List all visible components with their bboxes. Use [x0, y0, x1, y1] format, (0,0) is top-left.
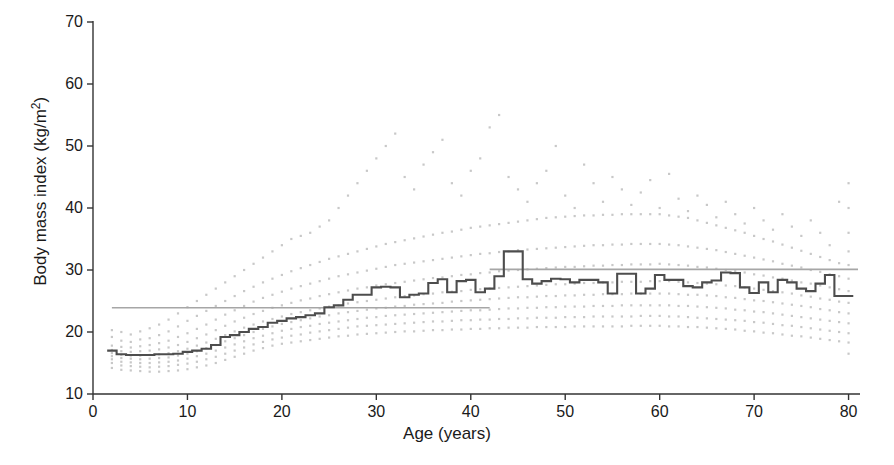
- scatter-point: [309, 232, 311, 234]
- scatter-point: [706, 327, 708, 329]
- scatter-point: [498, 270, 500, 272]
- scatter-point: [347, 302, 349, 304]
- scatter-point: [422, 260, 424, 262]
- scatter-point: [413, 237, 415, 239]
- scatter-point: [441, 311, 443, 313]
- scatter-point: [394, 323, 396, 325]
- scatter-point: [413, 313, 415, 315]
- scatter-point: [706, 266, 708, 268]
- scatter-point: [130, 346, 132, 348]
- scatter-point: [290, 270, 292, 272]
- scatter-point: [649, 315, 651, 317]
- scatter-point: [649, 213, 651, 215]
- scatter-point: [215, 288, 217, 290]
- scatter-point: [413, 261, 415, 263]
- scatter-point: [545, 284, 547, 286]
- scatter-point: [149, 366, 151, 368]
- scatter-point: [460, 229, 462, 231]
- scatter-point: [602, 315, 604, 317]
- scatter-point: [290, 313, 292, 315]
- scatter-point: [536, 284, 538, 286]
- scatter-point: [243, 305, 245, 307]
- y-tick-label: 10: [49, 386, 83, 402]
- scatter-point: [583, 316, 585, 318]
- scatter-point: [696, 282, 698, 284]
- scatter-point: [441, 329, 443, 331]
- scatter-point: [715, 327, 717, 329]
- scatter-point: [819, 308, 821, 310]
- scatter-point: [829, 309, 831, 311]
- scatter-point: [205, 323, 207, 325]
- scatter-point: [262, 335, 264, 337]
- scatter-point: [592, 315, 594, 317]
- scatter-point: [120, 369, 122, 371]
- scatter-point: [829, 286, 831, 288]
- scatter-point: [649, 280, 651, 282]
- scatter-point: [479, 309, 481, 311]
- scatter-point: [394, 133, 396, 135]
- scatter-point: [791, 247, 793, 249]
- scatter-point: [791, 226, 793, 228]
- scatter-point: [460, 310, 462, 312]
- scatter-point: [762, 258, 764, 260]
- scatter-point: [319, 261, 321, 263]
- scatter-point: [602, 293, 604, 295]
- scatter-point: [404, 330, 406, 332]
- scatter-point: [196, 366, 198, 368]
- scatter-point: [441, 232, 443, 234]
- scatter-point: [328, 278, 330, 280]
- scatter-point: [243, 317, 245, 319]
- scatter-point: [177, 350, 179, 352]
- scatter-point: [243, 353, 245, 355]
- scatter-point: [611, 281, 613, 283]
- scatter-point: [177, 369, 179, 371]
- scatter-point: [167, 356, 169, 358]
- scatter-point: [337, 320, 339, 322]
- scatter-point: [290, 335, 292, 337]
- scatter-point: [555, 295, 557, 297]
- scatter-point: [753, 288, 755, 290]
- scatter-point: [574, 316, 576, 318]
- scatter-point: [177, 336, 179, 338]
- scatter-point: [687, 281, 689, 283]
- scatter-point: [536, 296, 538, 298]
- scatter-point: [564, 283, 566, 285]
- scatter-point: [441, 320, 443, 322]
- scatter-point: [526, 201, 528, 203]
- scatter-point: [196, 328, 198, 330]
- scatter-point: [630, 263, 632, 265]
- scatter-point: [696, 219, 698, 221]
- scatter-point: [744, 255, 746, 257]
- scatter-point: [517, 307, 519, 309]
- scatter-point: [819, 232, 821, 234]
- scatter-point: [555, 283, 557, 285]
- scatter-point: [753, 207, 755, 209]
- scatter-point: [262, 341, 264, 343]
- scatter-point: [262, 328, 264, 330]
- scatter-point: [441, 302, 443, 304]
- scatter-point: [111, 367, 113, 369]
- scatter-point: [555, 317, 557, 319]
- scatter-point: [744, 298, 746, 300]
- scatter-point: [130, 358, 132, 360]
- scatter-point: [224, 353, 226, 355]
- scatter-point: [177, 359, 179, 361]
- scatter-point: [725, 319, 727, 321]
- scatter-point: [630, 292, 632, 294]
- scatter-point: [149, 344, 151, 346]
- scatter-point: [791, 315, 793, 317]
- scatter-point: [234, 337, 236, 339]
- scatter-point: [196, 300, 198, 302]
- scatter-point: [659, 280, 661, 282]
- scatter-points-layer: [111, 114, 850, 373]
- scatter-point: [451, 182, 453, 184]
- scatter-point: [356, 182, 358, 184]
- scatter-point: [111, 362, 113, 364]
- scatter-point: [517, 221, 519, 223]
- scatter-point: [791, 304, 793, 306]
- scatter-point: [640, 315, 642, 317]
- scatter-point: [659, 207, 661, 209]
- scatter-point: [319, 330, 321, 332]
- x-tick-label: 20: [262, 404, 302, 420]
- scatter-point: [649, 263, 651, 265]
